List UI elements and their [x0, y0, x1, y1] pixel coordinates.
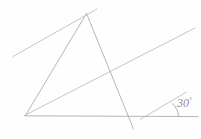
degree-symbol: ° — [189, 96, 192, 104]
baseline — [25, 116, 199, 117]
geometry-figure: 30° — [0, 0, 201, 139]
transversal-through-apex — [13, 9, 97, 57]
geometry-canvas — [0, 0, 201, 139]
triangle-left-side — [26, 14, 87, 116]
angle-label-30: 30° — [177, 97, 192, 109]
angle-value: 30 — [177, 96, 189, 110]
